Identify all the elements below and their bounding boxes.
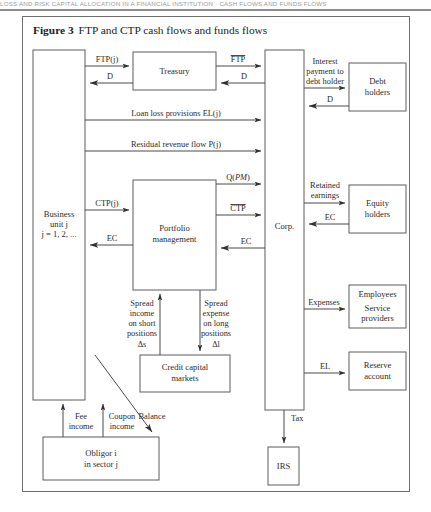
node-business-unit-line2: unit j	[50, 219, 68, 229]
edge-loan-loss-provisions-label: Loan loss provisions EL(j)	[131, 109, 221, 118]
edge-spread-income-line5: Δs	[138, 340, 147, 349]
edge-ec-equity-to-corp-label: EC	[325, 213, 336, 222]
edge-interest-payment-line2: payment to	[306, 67, 343, 76]
edge-ec-pm-to-bu-label: EC	[107, 234, 118, 243]
edge-spread-expense-line3: on long	[203, 319, 229, 328]
node-employees-line1: Employees	[358, 289, 397, 299]
edge-residual-revenue-flow-label: Residual revenue flow P(j)	[131, 140, 221, 149]
node-reserve-account-line1: Reserve	[364, 360, 392, 370]
edge-fee-income-line1: Fee	[75, 412, 87, 421]
node-credit-capital-markets-line2: markets	[171, 373, 199, 383]
edge-fee-income-line2: income	[69, 422, 94, 431]
node-business-unit-line1: Business	[44, 209, 75, 219]
edge-coupon-income-line1: Coupon	[109, 412, 136, 421]
edge-d-treasury-to-bu-label: D	[107, 72, 113, 81]
edge-ctp-j-label: CTP(j)	[95, 199, 118, 208]
node-business-unit-line3: j = 1, 2, ...	[40, 229, 76, 239]
node-credit-capital-markets-line1: Credit capital	[162, 362, 209, 372]
flow-diagram: Business unit j j = 1, 2, ... Treasury P…	[0, 0, 431, 512]
edge-ec-corp-to-pm-label: EC	[241, 237, 252, 246]
edge-q-pm-label: Q(PM)	[226, 173, 250, 182]
edge-retained-earnings-line2: earnings	[311, 191, 339, 200]
node-employees-line2: Service	[365, 303, 391, 313]
edge-spread-income-line2: income	[130, 309, 155, 318]
edge-ftp-j-label: FTP(j)	[96, 55, 119, 64]
edge-balance-label: Balance	[139, 412, 166, 421]
edge-coupon-income-line2: income	[110, 422, 135, 431]
edge-interest-payment-line1: Interest	[312, 57, 338, 66]
node-equity-holders-line2: holders	[365, 209, 391, 219]
node-employees-line3: providers	[361, 313, 394, 323]
node-portfolio-management-line2: management	[153, 234, 198, 244]
node-treasury-line1: Treasury	[159, 66, 190, 76]
edge-spread-income-line4: positions	[127, 329, 157, 338]
edge-spread-expense-line5: Δl	[212, 340, 220, 349]
node-reserve-account-line2: account	[364, 371, 391, 381]
node-debt-holders-line1: Debt	[369, 76, 386, 86]
edge-interest-payment-line3: debt holder	[306, 77, 344, 86]
edge-d-debt-to-corp-label: D	[327, 95, 333, 104]
edge-ctp-bar-label: CTP	[230, 204, 246, 213]
node-corp-line1: Corp.	[275, 221, 294, 231]
node-obligor-line2: in sector j	[84, 459, 118, 469]
node-obligor-line1: Obligor i	[85, 448, 117, 458]
edge-spread-income-line3: on short	[128, 319, 156, 328]
edge-expenses-label: Expenses	[308, 298, 340, 307]
edge-el-reserve-label: EL	[320, 362, 330, 371]
node-debt-holders-line2: holders	[365, 87, 391, 97]
edge-spread-expense-line4: positions	[201, 329, 231, 338]
edge-ftp-bar-label: FTP	[231, 55, 246, 64]
node-irs-line1: IRS	[277, 461, 291, 471]
edge-spread-expense-line2: expense	[203, 309, 230, 318]
node-equity-holders-line1: Equity	[366, 198, 390, 208]
figure-page: LOSS AND RISK CAPITAL ALLOCATION IN A FI…	[0, 0, 431, 512]
edge-spread-expense-line1: Spread	[204, 299, 228, 308]
edge-d-corp-to-treasury-label: D	[241, 72, 247, 81]
node-portfolio-management-line1: Portfolio	[159, 223, 190, 233]
edge-tax-label: Tax	[291, 414, 304, 423]
edge-retained-earnings-line1: Retained	[310, 181, 341, 190]
edge-spread-income-line1: Spread	[130, 299, 154, 308]
